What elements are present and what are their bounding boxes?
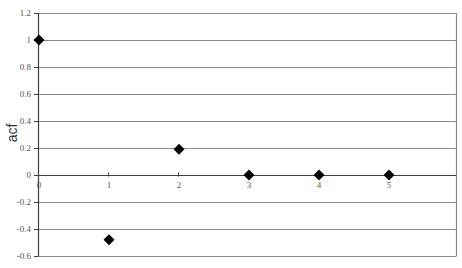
diamond-marker [34, 35, 45, 46]
data-series-acf [34, 35, 395, 246]
y-tick-label: -0.2 [17, 197, 31, 207]
y-tick-label: 0.4 [20, 116, 32, 126]
axes [34, 13, 456, 257]
diamond-marker [174, 144, 185, 155]
y-axis-label: acf [4, 124, 20, 143]
y-tick-label: 0.8 [20, 62, 32, 72]
y-tick-label: 0.2 [20, 143, 31, 153]
x-tick-label: 5 [387, 180, 392, 190]
diamond-marker [244, 170, 255, 181]
x-tick-label: 1 [107, 180, 112, 190]
y-tick-label: 0.6 [20, 89, 32, 99]
y-tick-label: 1.2 [20, 8, 31, 18]
x-tick-label: 3 [247, 180, 252, 190]
acf-chart: 1.210.80.60.40.20-0.2-0.4-0.6 012345 acf [0, 0, 462, 268]
y-tick-label: 1 [27, 35, 32, 45]
x-tick-label: 4 [317, 180, 322, 190]
diamond-marker [314, 170, 325, 181]
y-tick-label: -0.4 [17, 224, 32, 234]
x-axis-tick-labels: 012345 [37, 180, 392, 190]
diamond-marker [104, 234, 115, 245]
horizontal-gridlines [38, 14, 456, 257]
y-tick-label: -0.6 [17, 251, 32, 261]
x-tick-label: 2 [177, 180, 182, 190]
y-tick-label: 0 [27, 170, 32, 180]
diamond-marker [384, 170, 395, 181]
x-tick-label: 0 [37, 180, 42, 190]
